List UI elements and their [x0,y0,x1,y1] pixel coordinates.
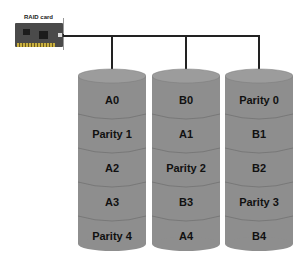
block: Parity 0 [225,83,293,117]
block: B2 [225,151,293,185]
block: Parity 2 [152,151,220,185]
block: A2 [78,151,146,185]
block: B1 [225,117,293,151]
block: A0 [78,83,146,117]
bus-line-right [63,35,260,37]
raid-card-label: RAID card [24,14,53,20]
drop-line-2 [185,35,187,71]
disk-1: A0 Parity 1 A2 A3 Parity 4 [78,68,146,253]
raid-card-icon [15,23,63,47]
block: A3 [78,185,146,219]
disk-3: Parity 0 B1 B2 Parity 3 B4 [225,68,293,253]
drop-line-1 [111,35,113,71]
block: Parity 3 [225,185,293,219]
block: Parity 1 [78,117,146,151]
block: A1 [152,117,220,151]
disk-2: B0 A1 Parity 2 B3 A4 [152,68,220,253]
drop-line-3 [258,35,260,71]
block: A4 [152,219,220,253]
block: B3 [152,185,220,219]
block: B4 [225,219,293,253]
block: B0 [152,83,220,117]
block: Parity 4 [78,219,146,253]
